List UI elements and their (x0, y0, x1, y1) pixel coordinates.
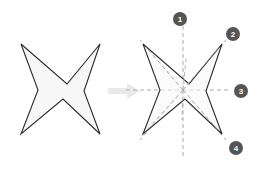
badge-2-label: 2 (231, 30, 236, 39)
badge-4[interactable]: 4 (229, 141, 243, 155)
symmetry-figure-svg: 1 2 3 4 (0, 0, 265, 188)
badge-1[interactable]: 1 (173, 12, 187, 26)
transform-arrow (108, 83, 140, 99)
badge-3[interactable]: 3 (234, 84, 248, 98)
badge-3-label: 3 (239, 87, 244, 96)
left-star-outline (21, 44, 100, 134)
figure-canvas: 1 2 3 4 (0, 0, 265, 188)
left-star-group (21, 39, 100, 134)
badge-4-label: 4 (234, 144, 239, 153)
badge-1-label: 1 (178, 15, 183, 24)
badge-2[interactable]: 2 (226, 27, 240, 41)
